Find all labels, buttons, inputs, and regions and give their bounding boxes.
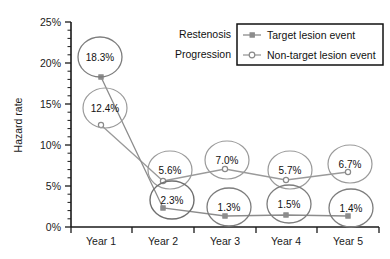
callout-year-2-target: 2.3%	[150, 181, 194, 219]
callout-year-1-non-target: 12.4%	[83, 88, 127, 128]
callout-label-year-3-non-target: 7.0%	[216, 155, 239, 166]
callout-year-4-non-target: 5.7%	[268, 151, 312, 189]
legend-label-non-target-lesion-event: Non-target lesion event	[267, 49, 376, 61]
series-line-target-lesion-event	[101, 77, 348, 216]
callout-label-year-5-non-target: 6.7%	[339, 159, 362, 170]
y-tick-label-0: 0%	[46, 221, 61, 233]
hazard-rate-chart: 0% 5% 10% 15% 20% 25% Hazard rate Year 1…	[0, 0, 390, 259]
callout-label-year-1-target: 18.3%	[86, 52, 114, 63]
legend-marker-open-circle-icon	[249, 52, 255, 58]
legend-label-target-lesion-event: Target lesion event	[267, 29, 355, 41]
callout-year-3-non-target: 7.0%	[205, 141, 249, 179]
x-axis-ticks	[71, 227, 379, 233]
callout-label-year-4-target: 1.5%	[278, 199, 301, 210]
y-tick-label-15: 15%	[40, 98, 61, 110]
callout-label-year-5-target: 1.4%	[340, 203, 363, 214]
x-tick-label-year-4: Year 4	[271, 235, 301, 247]
y-axis-title: Hazard rate	[12, 97, 24, 152]
y-axis-major-ticks	[65, 22, 71, 227]
legend-side-label-restenosis: Restenosis	[179, 28, 231, 40]
callout-year-1-target: 18.3%	[78, 37, 122, 77]
callout-year-5-non-target: 6.7%	[328, 145, 372, 183]
legend-marker-filled-square-icon	[250, 33, 254, 37]
callout-label-year-2-non-target: 5.6%	[159, 165, 182, 176]
callout-label-year-1-non-target: 12.4%	[91, 103, 119, 114]
y-tick-label-20: 20%	[40, 57, 61, 69]
y-tick-label-5: 5%	[46, 180, 61, 192]
callout-label-year-2-target: 2.3%	[161, 195, 184, 206]
x-tick-label-year-1: Year 1	[86, 235, 116, 247]
x-tick-label-year-2: Year 2	[148, 235, 178, 247]
callout-year-5-target: 1.4%	[329, 189, 373, 227]
callout-label-year-3-target: 1.3%	[218, 202, 241, 213]
chart-legend: Target lesion event Non-target lesion ev…	[237, 24, 383, 65]
legend-side-label-progression: Progression	[175, 48, 231, 60]
x-tick-label-year-3: Year 3	[210, 235, 240, 247]
series-line-non-target-lesion-event	[101, 125, 348, 181]
x-tick-label-year-5: Year 5	[333, 235, 363, 247]
chart-canvas: 0% 5% 10% 15% 20% 25% Hazard rate Year 1…	[0, 0, 390, 259]
series-markers-target-lesion-event	[99, 75, 350, 218]
y-tick-label-10: 10%	[40, 139, 61, 151]
callout-label-year-4-non-target: 5.7%	[279, 165, 302, 176]
callout-year-3-target: 1.3%	[207, 188, 251, 226]
y-tick-label-25: 25%	[40, 16, 61, 28]
callout-year-4-target: 1.5%	[267, 185, 311, 223]
series-markers-non-target-lesion-event	[98, 122, 350, 183]
callout-year-2-non-target: 5.6%	[148, 151, 192, 189]
